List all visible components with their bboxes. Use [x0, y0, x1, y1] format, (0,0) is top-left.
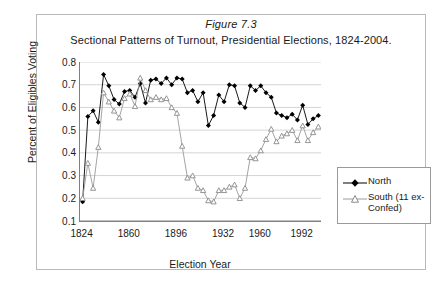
y-tick-label: 0.7 [62, 79, 76, 90]
chart-canvas [80, 62, 321, 221]
chart-legend: North South (11 ex-Confed) [337, 167, 431, 224]
y-axis-label: Percent of Eligibles Voting [26, 22, 38, 182]
y-tick-label: 0.5 [62, 125, 76, 136]
plot-area [79, 62, 321, 222]
x-tick-label: 1932 [212, 228, 234, 239]
x-axis-tick-labels: 182418601896193219601992 [0, 228, 439, 242]
y-tick-label: 0.3 [62, 170, 76, 181]
y-tick-label: 0.2 [62, 193, 76, 204]
south-series-marker-icon [342, 191, 368, 203]
x-tick-label: 1896 [165, 228, 187, 239]
figure-container: Figure 7.3 Sectional Patterns of Turnout… [0, 0, 439, 287]
y-tick-label: 0.1 [62, 216, 76, 227]
y-tick-label: 0.6 [62, 102, 76, 113]
north-series-marker-icon [342, 175, 368, 187]
figure-number: Figure 7.3 [36, 18, 426, 30]
x-tick-label: 1992 [291, 228, 313, 239]
y-axis-tick-labels: 0.80.70.60.50.40.30.20.1 [50, 56, 76, 228]
x-tick-label: 1960 [249, 228, 271, 239]
legend-label-south: South (11 ex-Confed) [368, 191, 426, 213]
x-axis-label: Election Year [60, 258, 340, 270]
legend-label-north: North [368, 175, 391, 186]
y-tick-label: 0.4 [62, 147, 76, 158]
x-tick-label: 1824 [70, 228, 92, 239]
x-tick-label: 1860 [118, 228, 140, 239]
legend-item-north[interactable]: North [342, 175, 426, 187]
legend-item-south[interactable]: South (11 ex-Confed) [342, 191, 426, 213]
figure-title: Sectional Patterns of Turnout, President… [36, 34, 426, 46]
y-tick-label: 0.8 [62, 57, 76, 68]
